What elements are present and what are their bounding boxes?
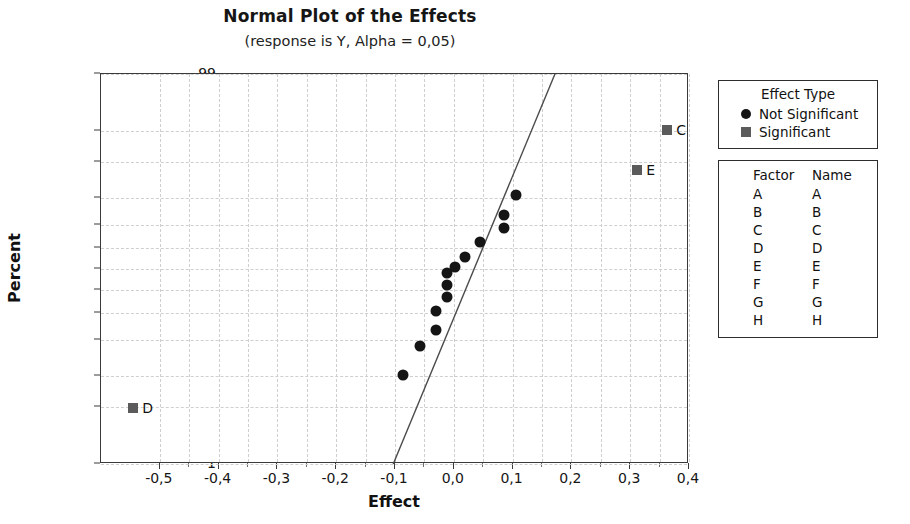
x-axis-title: Effect [100, 492, 688, 511]
name-cell: B [798, 203, 877, 221]
not-significant-effect-marker [510, 189, 521, 200]
legend-entry-not-significant: Not Significant [719, 105, 877, 123]
not-significant-effect-marker [474, 237, 485, 248]
significant-effect-marker [632, 165, 642, 175]
legend-effect-type: Effect Type Not Significant Significant [718, 80, 878, 149]
not-significant-effect-marker [441, 279, 452, 290]
significant-effect-marker [128, 403, 138, 413]
x-tick-label: -0,5 [145, 470, 172, 486]
not-significant-effect-marker [431, 324, 442, 335]
table-row: FF [719, 275, 877, 293]
x-tick-label: 0,2 [559, 470, 581, 486]
factor-cell: D [719, 239, 798, 257]
table-row: EE [719, 257, 877, 275]
column-header-factor: Factor [719, 166, 798, 185]
not-significant-effect-marker [449, 262, 460, 273]
name-cell: G [798, 293, 877, 311]
y-axis-title: Percent [5, 233, 24, 303]
not-significant-effect-marker [414, 341, 425, 352]
factor-cell: B [719, 203, 798, 221]
effect-point-label: E [646, 162, 655, 178]
factor-cell: G [719, 293, 798, 311]
table-row: CC [719, 221, 877, 239]
significant-effect-marker [662, 125, 672, 135]
factor-cell: H [719, 311, 798, 329]
legend-entry-label: Not Significant [759, 106, 858, 122]
effect-point-label: C [676, 122, 686, 138]
table-header-row: Factor Name [719, 166, 877, 185]
effect-point-label: D [142, 400, 153, 416]
name-cell: D [798, 239, 877, 257]
name-cell: A [798, 185, 877, 203]
not-significant-effect-marker [431, 306, 442, 317]
table-row: AA [719, 185, 877, 203]
gridline-horizontal [101, 464, 687, 465]
table-row: BB [719, 203, 877, 221]
x-tick-label: -0,2 [322, 470, 349, 486]
not-significant-effect-marker [441, 292, 452, 303]
table-row: GG [719, 293, 877, 311]
factor-cell: E [719, 257, 798, 275]
plot-area: DEC [100, 73, 688, 463]
x-tick-label: 0,0 [442, 470, 464, 486]
legend-entry-label: Significant [759, 124, 830, 140]
not-significant-effect-marker [499, 209, 510, 220]
x-tick-label: 0,3 [618, 470, 640, 486]
name-cell: E [798, 257, 877, 275]
not-significant-effect-marker [459, 251, 470, 262]
name-cell: F [798, 275, 877, 293]
name-cell: H [798, 311, 877, 329]
x-tick-label: -0,1 [380, 470, 407, 486]
legend-effect-type-title: Effect Type [719, 86, 877, 102]
factor-cell: C [719, 221, 798, 239]
legend-entry-significant: Significant [719, 123, 877, 141]
gridline-vertical [689, 74, 690, 462]
x-tick-label: -0,4 [204, 470, 231, 486]
normal-plot-page: Normal Plot of the Effects (response is … [0, 0, 910, 524]
chart-subtitle: (response is Y, Alpha = 0,05) [0, 33, 700, 49]
not-significant-effect-marker [398, 370, 409, 381]
chart-title: Normal Plot of the Effects [0, 6, 700, 26]
name-cell: C [798, 221, 877, 239]
x-tick-label: -0,3 [263, 470, 290, 486]
table-row: HH [719, 311, 877, 329]
x-tick-label: 0,4 [677, 470, 699, 486]
not-significant-effect-marker [499, 223, 510, 234]
circle-marker-icon [741, 109, 751, 119]
x-tick-label: 0,1 [500, 470, 522, 486]
table-row: DD [719, 239, 877, 257]
legend-factor-table: Factor Name AABBCCDDEEFFGGHH [718, 160, 878, 338]
factor-name-table: Factor Name AABBCCDDEEFFGGHH [719, 166, 877, 329]
factor-cell: F [719, 275, 798, 293]
normal-fit-line [101, 74, 689, 464]
factor-cell: A [719, 185, 798, 203]
square-marker-icon [741, 127, 751, 137]
column-header-name: Name [798, 166, 877, 185]
